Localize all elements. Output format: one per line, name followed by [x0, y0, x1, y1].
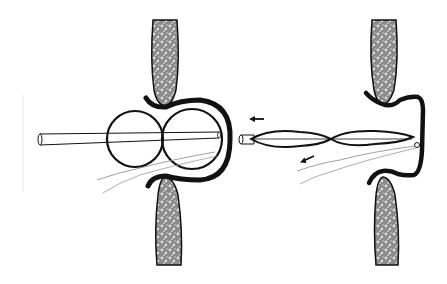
deflated-balloon-distal — [331, 131, 413, 145]
right-panel — [239, 20, 423, 265]
thread-right-2 — [300, 148, 416, 184]
thread-right-1 — [297, 146, 415, 171]
proximal-balloon — [107, 111, 163, 167]
left-panel — [38, 20, 230, 265]
catheter-end-left — [218, 132, 221, 138]
upper-tissue-right — [371, 20, 397, 104]
catheter-tip-right — [239, 135, 243, 144]
catheter-tip-left — [38, 134, 42, 145]
lower-tissue-right — [375, 177, 399, 265]
anchor-point — [415, 143, 420, 148]
upper-tissue-left — [152, 20, 179, 106]
withdraw-arrow-icon — [249, 116, 264, 122]
thread-arrow-icon — [300, 156, 314, 163]
lower-tissue-left — [156, 177, 182, 265]
diagram-figure — [0, 0, 447, 284]
